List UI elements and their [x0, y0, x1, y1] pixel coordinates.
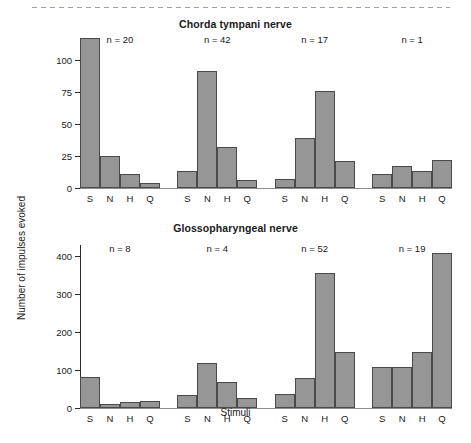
bar	[315, 273, 335, 408]
bar	[80, 377, 100, 408]
figure-root: Number of impulses evoked Chorda tympani…	[0, 0, 471, 443]
bar	[392, 367, 412, 408]
y-axis-tick-label: 100	[56, 54, 72, 65]
bar	[295, 138, 315, 188]
y-axis-tick-label: 75	[61, 86, 72, 97]
x-axis-tick-label: Q	[341, 193, 348, 204]
x-axis-tick-label: H	[321, 193, 328, 204]
x-axis-tick-label: S	[282, 193, 288, 204]
bar	[177, 171, 197, 188]
y-axis-tick-label: 50	[61, 118, 72, 129]
bar	[335, 352, 355, 408]
x-axis-tick-label: S	[87, 193, 93, 204]
bar	[80, 38, 100, 188]
x-axis-tick-label: Q	[438, 193, 445, 204]
bar	[315, 91, 335, 188]
y-axis-tick-label: 0	[67, 183, 72, 194]
y-axis-tick	[75, 332, 80, 333]
x-axis-tick-label: N	[204, 193, 211, 204]
y-axis-tick	[75, 294, 80, 295]
group-sample-size-label: n = 19	[399, 243, 426, 254]
x-axis-tick-label: S	[184, 193, 190, 204]
group-sample-size-label: n = 20	[107, 34, 134, 45]
bar	[335, 161, 355, 188]
bar	[217, 147, 237, 188]
bar	[177, 395, 197, 408]
bar	[120, 174, 140, 188]
x-axis-tick-label: Q	[146, 193, 153, 204]
bar	[197, 71, 217, 188]
bar	[432, 253, 452, 408]
x-axis-tick-label: N	[106, 193, 113, 204]
group-sample-size-label: n = 8	[109, 243, 130, 254]
x-axis-tick-label: Q	[244, 193, 251, 204]
x-axis-tick-label: H	[224, 193, 231, 204]
bar	[217, 382, 237, 408]
x-axis-tick-label: S	[379, 193, 385, 204]
panel-title-chorda-tympani: Chorda tympani nerve	[0, 18, 471, 30]
plot-area-glossopharyngeal: 0100200300400n = 8SNHQn = 4SNHQn = 52SNH…	[80, 245, 452, 408]
group-sample-size-label: n = 4	[207, 243, 228, 254]
bar	[275, 394, 295, 408]
y-axis-tick	[75, 370, 80, 371]
bar	[372, 367, 392, 408]
bar	[197, 363, 217, 408]
y-axis-tick-label: 100	[56, 365, 72, 376]
x-axis-tick-label: N	[399, 193, 406, 204]
x-axis-line	[80, 188, 452, 189]
bar	[432, 160, 452, 188]
y-axis-tick	[75, 256, 80, 257]
bar	[295, 378, 315, 408]
group-sample-size-label: n = 1	[401, 34, 422, 45]
bar	[372, 174, 392, 188]
y-axis-tick-label: 300	[56, 289, 72, 300]
x-axis-title: Stimuli	[0, 407, 471, 418]
bar	[412, 171, 432, 188]
group-sample-size-label: n = 52	[301, 243, 328, 254]
bar	[412, 352, 432, 408]
y-axis-tick-label: 200	[56, 327, 72, 338]
x-axis-tick-label: H	[126, 193, 133, 204]
group-sample-size-label: n = 17	[301, 34, 328, 45]
panel-chorda-tympani: Chorda tympani nerve 0255075100n = 20SNH…	[0, 0, 471, 212]
y-axis-tick-label: 400	[56, 251, 72, 262]
plot-area-chorda-tympani: 0255075100n = 20SNHQn = 42SNHQn = 17SNHQ…	[80, 38, 452, 188]
y-axis-tick-label: 25	[61, 150, 72, 161]
x-axis-tick-label: N	[301, 193, 308, 204]
y-axis-tick	[75, 188, 80, 189]
group-sample-size-label: n = 42	[204, 34, 231, 45]
bar	[140, 183, 160, 188]
bar	[100, 156, 120, 188]
panel-title-glossopharyngeal: Glossopharyngeal nerve	[0, 222, 471, 234]
bar	[275, 179, 295, 188]
x-axis-tick-label: H	[419, 193, 426, 204]
bar	[392, 166, 412, 188]
bar	[237, 180, 257, 188]
